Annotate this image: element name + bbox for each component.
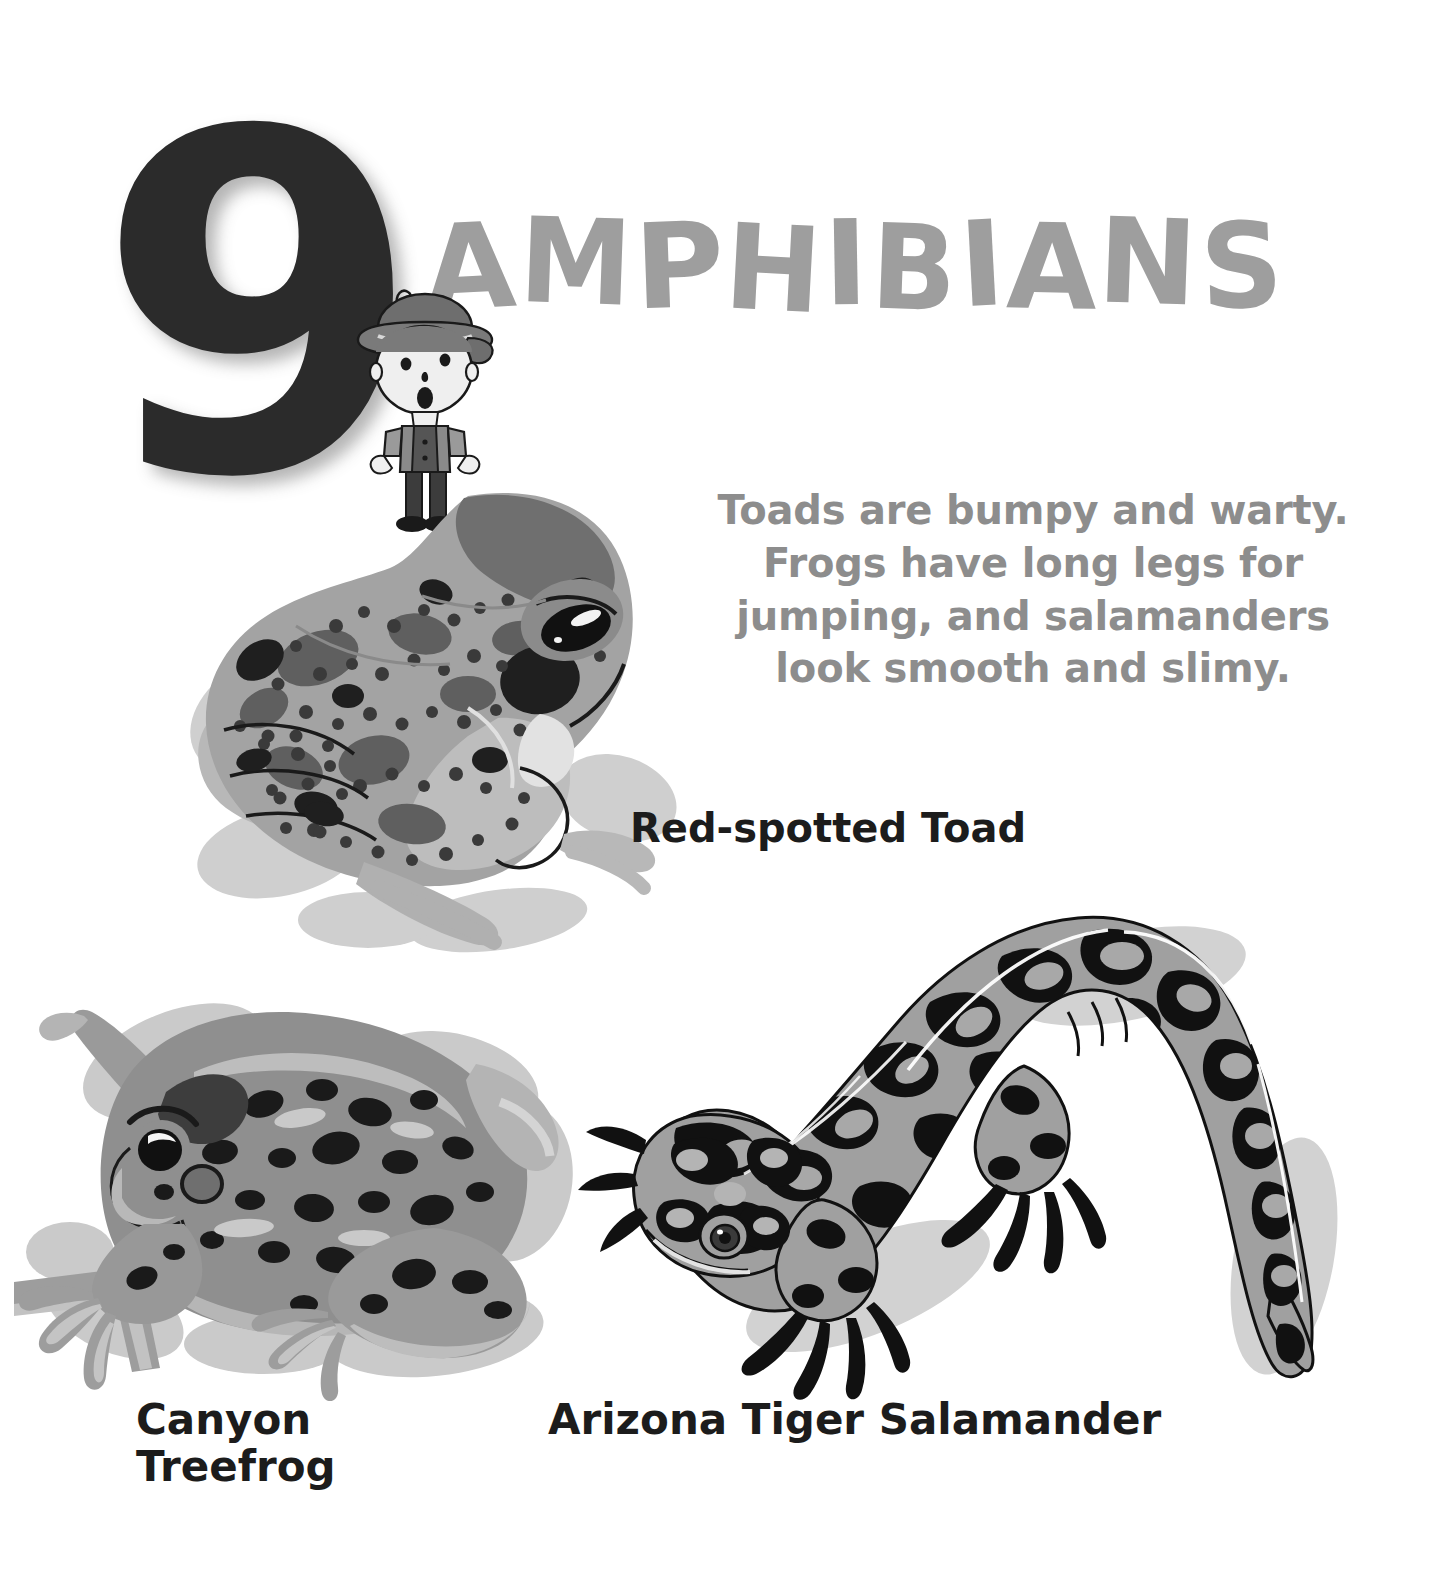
salamander-illustration — [568, 856, 1358, 1416]
page-title: AMPHIBIANS — [424, 206, 1334, 324]
page-root: 9 AMPHIBIANS — [0, 0, 1436, 1570]
title-letter: B — [869, 208, 960, 329]
title-letter: S — [1198, 206, 1286, 327]
caption-arizona-tiger-salamander: Arizona Tiger Salamander — [548, 1396, 1161, 1443]
treefrog-illustration — [14, 952, 574, 1442]
title-letter: I — [957, 204, 1010, 324]
title-letter: P — [632, 205, 727, 326]
title-letter: H — [721, 208, 825, 331]
intro-paragraph: Toads are bumpy and warty. Frogs have lo… — [688, 484, 1378, 695]
caption-canyon-treefrog: Canyon Treefrog — [136, 1396, 336, 1490]
caption-red-spotted-toad: Red-spotted Toad — [630, 806, 1026, 851]
title-letter: A — [1005, 207, 1099, 327]
title-letter: I — [822, 204, 870, 323]
title-letter: N — [1096, 201, 1201, 322]
title-letter: M — [517, 201, 635, 323]
